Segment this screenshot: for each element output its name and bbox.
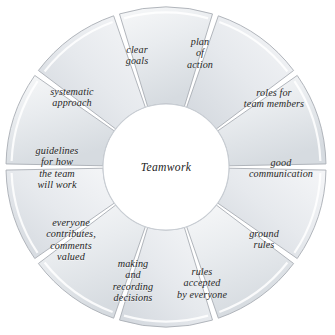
hub-label: Teamwork	[141, 161, 191, 174]
teamwork-wheel-diagram: clear goalsplan of actionroles for team …	[0, 0, 335, 335]
